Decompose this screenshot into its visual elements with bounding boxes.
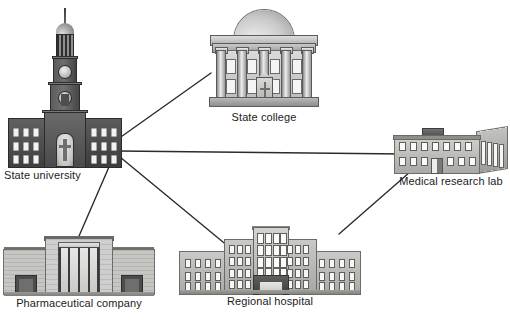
edge-university-lab [118, 151, 404, 154]
node-pharmaceutical-company[interactable]: Pharmaceutical company [4, 234, 154, 310]
pharmaceutical-company-icon [4, 234, 154, 296]
node-regional-hospital[interactable]: Regional hospital [180, 226, 360, 308]
state-college-icon [205, 10, 323, 110]
node-label-medical-research-lab: Medical research lab [393, 175, 509, 188]
network-diagram: State university [0, 0, 510, 324]
node-medical-research-lab[interactable]: Medical research lab [393, 128, 509, 188]
node-state-college[interactable]: State college [205, 10, 323, 124]
state-university-icon [4, 8, 126, 168]
node-label-regional-hospital: Regional hospital [180, 295, 360, 308]
node-state-university[interactable]: State university [4, 8, 126, 182]
medical-research-lab-icon [393, 128, 509, 174]
regional-hospital-icon [180, 226, 360, 294]
node-label-state-college: State college [205, 111, 323, 124]
node-label-state-university: State university [4, 169, 126, 182]
edge-university-college [118, 73, 211, 139]
node-label-pharmaceutical-company: Pharmaceutical company [4, 297, 154, 310]
